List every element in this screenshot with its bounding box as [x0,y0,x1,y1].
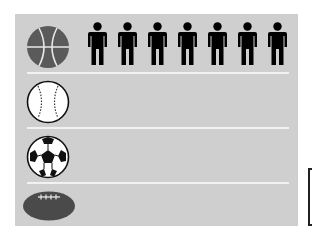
person-icon [237,22,258,66]
soccer-ball-icon [25,134,71,180]
football-icon [22,190,76,222]
row-baseball [15,74,298,127]
person-icon [267,22,288,66]
row-basketball [15,14,298,67]
baseball-icon [25,79,71,125]
person-icons [87,22,288,66]
person-icon [207,22,228,66]
basketball-icon [25,24,71,70]
bracket-marker [308,168,312,226]
row-football [15,184,298,229]
pictograph-panel [15,14,298,226]
person-icon [117,22,138,66]
person-icon [147,22,168,66]
person-icon [87,22,108,66]
row-soccer [15,129,298,182]
person-icon [177,22,198,66]
